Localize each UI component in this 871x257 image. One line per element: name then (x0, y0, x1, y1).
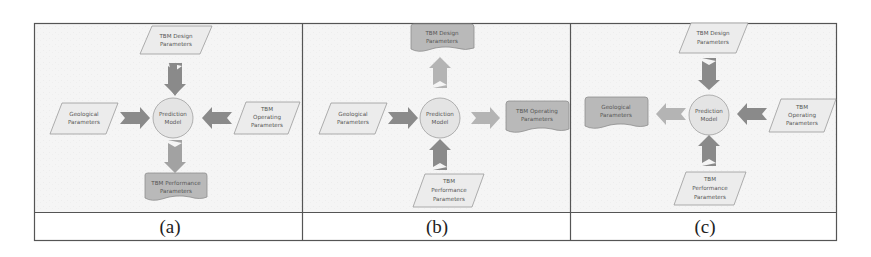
svg-text:Parameters: Parameters (160, 41, 192, 47)
node-left-geological-parameters: Geological Parameters (585, 97, 648, 128)
svg-text:TBM: TBM (442, 178, 455, 184)
svg-text:TBM: TBM (260, 106, 273, 112)
node-left-geological-parameters: Geological Parameters (50, 103, 118, 134)
node-right-operating-parameters: TBM Operating Parameters (769, 99, 836, 132)
node-prediction-model: Prediction Model (153, 98, 193, 138)
svg-text:TBM: TBM (795, 104, 808, 110)
node-right-operating-parameters: TBM Operating Parameters (506, 101, 569, 132)
node-prediction-model: Prediction Model (689, 95, 729, 135)
panel-a-caption: (a) (159, 216, 180, 238)
svg-text:Operating: Operating (788, 112, 816, 119)
svg-text:Model: Model (701, 116, 718, 122)
svg-text:Parameters: Parameters (337, 119, 369, 125)
svg-text:Parameters: Parameters (251, 122, 283, 128)
svg-text:Performance: Performance (431, 187, 467, 193)
svg-text:Geological: Geological (338, 111, 368, 118)
figure-diagram: TBM Design Parameters Geological Paramet… (0, 0, 871, 257)
node-bottom-performance-parameters: TBM Performance Parameters (674, 172, 746, 205)
svg-text:Model: Model (165, 119, 182, 125)
svg-text:Parameters: Parameters (697, 39, 729, 45)
svg-text:Geological: Geological (69, 111, 99, 118)
svg-text:Prediction: Prediction (159, 111, 187, 117)
svg-text:TBM: TBM (703, 176, 716, 182)
svg-text:Geological: Geological (601, 104, 631, 111)
svg-text:Operating: Operating (253, 114, 281, 121)
node-bottom-performance-parameters: TBM Performance Parameters (413, 174, 484, 207)
svg-text:Parameters: Parameters (521, 116, 553, 122)
svg-text:Parameters: Parameters (160, 188, 192, 194)
svg-text:Parameters: Parameters (68, 119, 100, 125)
svg-text:Performance: Performance (692, 185, 728, 191)
svg-text:Prediction: Prediction (426, 111, 454, 117)
svg-text:TBM Design: TBM Design (424, 30, 459, 37)
svg-text:TBM Design: TBM Design (158, 33, 193, 40)
svg-text:TBM Performance: TBM Performance (150, 180, 201, 186)
svg-text:Model: Model (432, 119, 449, 125)
svg-text:Parameters: Parameters (600, 112, 632, 118)
node-right-operating-parameters: TBM Operating Parameters (234, 102, 300, 134)
node-top-design-parameters: TBM Design Parameters (679, 23, 748, 53)
panel-c-caption: (c) (694, 216, 715, 238)
svg-text:Prediction: Prediction (695, 108, 723, 114)
svg-text:Parameters: Parameters (426, 38, 458, 44)
svg-text:Parameters: Parameters (694, 194, 726, 200)
svg-text:Parameters: Parameters (786, 120, 818, 126)
node-left-geological-parameters: Geological Parameters (319, 103, 387, 134)
panel-b-caption: (b) (426, 216, 448, 238)
node-bottom-performance-parameters: TBM Performance Parameters (145, 173, 207, 200)
node-prediction-model: Prediction Model (420, 98, 460, 138)
svg-text:Parameters: Parameters (433, 196, 465, 202)
node-top-design-parameters: TBM Design Parameters (411, 24, 474, 51)
node-top-design-parameters: TBM Design Parameters (140, 26, 212, 54)
svg-text:TBM Operating: TBM Operating (515, 108, 558, 115)
svg-text:TBM Design: TBM Design (695, 30, 730, 37)
